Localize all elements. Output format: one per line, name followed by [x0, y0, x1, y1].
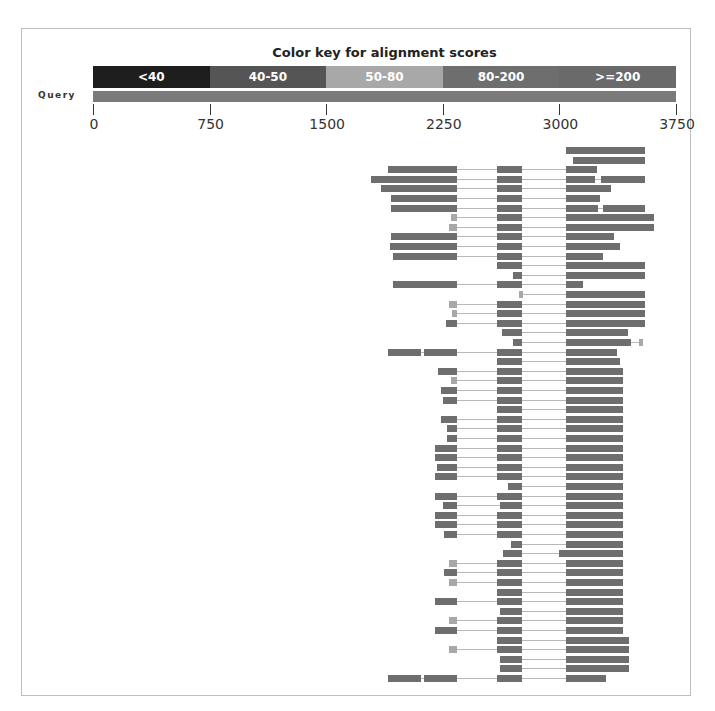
hit-segment[interactable]: [566, 243, 620, 250]
hit-row[interactable]: [0, 272, 715, 280]
hit-segment[interactable]: [497, 224, 522, 231]
hit-segment[interactable]: [497, 627, 522, 634]
hit-segment[interactable]: [566, 541, 624, 548]
hit-row[interactable]: [0, 416, 715, 424]
hit-segment[interactable]: [444, 531, 456, 538]
hit-segment[interactable]: [497, 425, 522, 432]
hit-segment[interactable]: [497, 493, 522, 500]
hit-row[interactable]: [0, 358, 715, 366]
hit-segment[interactable]: [566, 397, 624, 404]
hit-segment[interactable]: [497, 214, 522, 221]
hit-segment[interactable]: [566, 473, 624, 480]
hit-segment[interactable]: [497, 675, 522, 682]
hit-segment[interactable]: [435, 473, 457, 480]
hit-segment[interactable]: [566, 579, 624, 586]
hit-segment[interactable]: [497, 598, 522, 605]
hit-segment[interactable]: [497, 195, 522, 202]
hit-segment[interactable]: [566, 176, 596, 183]
hit-row[interactable]: [0, 598, 715, 606]
hit-segment[interactable]: [388, 166, 456, 173]
hit-segment[interactable]: [566, 656, 630, 663]
hit-segment[interactable]: [601, 176, 645, 183]
hit-row[interactable]: [0, 320, 715, 328]
hit-segment[interactable]: [500, 608, 522, 615]
hit-segment[interactable]: [566, 406, 624, 413]
hit-segment[interactable]: [497, 521, 522, 528]
hit-row[interactable]: [0, 291, 715, 299]
hit-segment[interactable]: [435, 627, 457, 634]
hit-segment[interactable]: [381, 185, 457, 192]
hit-row[interactable]: [0, 627, 715, 635]
hit-segment[interactable]: [424, 349, 457, 356]
hit-segment[interactable]: [497, 589, 522, 596]
hit-segment[interactable]: [566, 272, 645, 279]
hit-row[interactable]: [0, 550, 715, 558]
hit-row[interactable]: [0, 454, 715, 462]
hit-segment[interactable]: [566, 435, 624, 442]
hit-segment[interactable]: [449, 301, 457, 308]
hit-row[interactable]: [0, 493, 715, 501]
hit-segment[interactable]: [573, 157, 645, 164]
hit-segment[interactable]: [497, 560, 522, 567]
hit-row[interactable]: [0, 608, 715, 616]
hit-segment[interactable]: [435, 445, 457, 452]
hit-row[interactable]: [0, 397, 715, 405]
hit-segment[interactable]: [566, 627, 624, 634]
hit-segment[interactable]: [500, 656, 522, 663]
hit-segment[interactable]: [566, 483, 624, 490]
hit-segment[interactable]: [497, 310, 522, 317]
hit-segment[interactable]: [503, 550, 522, 557]
hit-row[interactable]: [0, 579, 715, 587]
hit-segment[interactable]: [566, 301, 645, 308]
hit-segment[interactable]: [566, 560, 624, 567]
hit-segment[interactable]: [449, 646, 457, 653]
hit-segment[interactable]: [566, 166, 597, 173]
hit-row[interactable]: [0, 483, 715, 491]
hit-segment[interactable]: [566, 608, 624, 615]
hit-segment[interactable]: [566, 214, 655, 221]
hit-segment[interactable]: [497, 377, 522, 384]
hit-row[interactable]: [0, 310, 715, 318]
hit-segment[interactable]: [566, 195, 600, 202]
hit-segment[interactable]: [566, 445, 624, 452]
hit-row[interactable]: [0, 617, 715, 625]
hit-segment[interactable]: [497, 569, 522, 576]
hit-segment[interactable]: [497, 281, 522, 288]
hit-row[interactable]: [0, 157, 715, 165]
hit-segment[interactable]: [441, 387, 457, 394]
hit-segment[interactable]: [391, 233, 456, 240]
hit-segment[interactable]: [497, 358, 522, 365]
hit-row[interactable]: [0, 675, 715, 683]
hit-segment[interactable]: [497, 387, 522, 394]
hit-segment[interactable]: [447, 435, 456, 442]
hit-segment[interactable]: [639, 339, 643, 346]
hit-row[interactable]: [0, 445, 715, 453]
hit-row[interactable]: [0, 646, 715, 654]
hit-segment[interactable]: [497, 320, 522, 327]
hit-segment[interactable]: [497, 176, 522, 183]
hit-segment[interactable]: [566, 262, 645, 269]
hit-segment[interactable]: [500, 502, 522, 509]
hit-segment[interactable]: [435, 598, 457, 605]
hit-row[interactable]: [0, 464, 715, 472]
hit-segment[interactable]: [566, 358, 620, 365]
hit-segment[interactable]: [566, 281, 583, 288]
hit-segment[interactable]: [508, 483, 522, 490]
hit-segment[interactable]: [497, 416, 522, 423]
hit-segment[interactable]: [566, 310, 645, 317]
hit-segment[interactable]: [449, 617, 457, 624]
hit-segment[interactable]: [424, 675, 457, 682]
hit-segment[interactable]: [513, 272, 522, 279]
hit-row[interactable]: [0, 281, 715, 289]
hit-row[interactable]: [0, 531, 715, 539]
hit-segment[interactable]: [441, 416, 457, 423]
hit-segment[interactable]: [566, 502, 624, 509]
hit-segment[interactable]: [566, 521, 624, 528]
hit-row[interactable]: [0, 205, 715, 213]
hit-segment[interactable]: [502, 329, 522, 336]
hit-segment[interactable]: [566, 598, 624, 605]
hit-segment[interactable]: [435, 512, 457, 519]
hit-segment[interactable]: [566, 454, 624, 461]
hit-segment[interactable]: [438, 368, 457, 375]
hit-row[interactable]: [0, 502, 715, 510]
